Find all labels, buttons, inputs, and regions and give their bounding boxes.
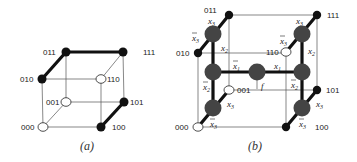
- vertex-100: [282, 123, 290, 131]
- svg-text:x2: x2: [307, 46, 315, 57]
- svg-text:x3: x3: [298, 119, 306, 130]
- edge-label-left-bottom-notx3: x3: [209, 119, 217, 130]
- svg-text:x3: x3: [207, 16, 215, 27]
- svg-text:x3: x3: [226, 99, 234, 110]
- vertex-011: [225, 11, 233, 19]
- svg-text:x3: x3: [315, 99, 323, 110]
- vertex-001: [61, 98, 71, 107]
- edge-label-right-notx2: x2: [290, 80, 298, 91]
- label-000: 000: [175, 123, 189, 132]
- label-001: 001: [46, 98, 60, 107]
- edge-111-101: [123, 52, 124, 102]
- label-100: 100: [112, 123, 126, 132]
- svg-text:x2: x2: [220, 43, 228, 54]
- vertex-000: [193, 123, 203, 131]
- label-110: 110: [266, 48, 279, 57]
- label-111: 111: [327, 11, 340, 20]
- output-label-f: f: [261, 81, 265, 91]
- node-left-bottom-x3: [205, 100, 222, 117]
- edge-label-right-top-x3: x3: [295, 16, 303, 27]
- vertex-101: [313, 86, 321, 94]
- label-101: 101: [326, 86, 340, 95]
- label-010: 010: [176, 49, 190, 58]
- node-left-x2: [205, 64, 222, 81]
- edge-label-left-notx2: x2: [202, 82, 210, 93]
- svg-text:x2: x2: [290, 80, 298, 91]
- edge-label-right-top-notx3: x3: [279, 36, 287, 47]
- label-011: 011: [204, 6, 217, 15]
- vertex-010: [38, 75, 47, 84]
- panel-b-cube: 011 111 010 110 001 101 000 100 x3 x3 x2…: [175, 6, 340, 153]
- vertex-111: [313, 11, 321, 19]
- edge-label-notx1: x1: [232, 61, 240, 72]
- label-111: 111: [143, 48, 156, 57]
- vertex-110: [281, 48, 291, 56]
- svg-text:x3: x3: [295, 16, 303, 27]
- svg-text:x2: x2: [202, 82, 210, 93]
- figure: 011 111 010 110 001 101 000 100 (a): [0, 0, 357, 162]
- svg-text:x1: x1: [273, 61, 281, 72]
- node-left-top-x3: [205, 26, 222, 43]
- vertex-101: [120, 98, 129, 107]
- vertex-100: [97, 123, 106, 132]
- node-right-bottom-x3: [294, 100, 311, 117]
- edge-label-right-bottom-notx3: x3: [298, 119, 306, 130]
- edge-label-right-x2: x2: [307, 46, 315, 57]
- panel-a-cube: 011 111 010 110 001 101 000 100 (a): [20, 48, 156, 154]
- label-010: 010: [20, 75, 34, 84]
- label-100: 100: [315, 123, 329, 132]
- edge-label-left-x2: x2: [220, 43, 228, 54]
- node-right-top-x3: [294, 26, 311, 43]
- label-110: 110: [107, 75, 120, 84]
- edge-010-000: [42, 79, 43, 127]
- edge-label-right-bottom-x3: x3: [315, 99, 323, 110]
- vertex-110: [96, 75, 106, 84]
- vertex-011: [62, 48, 71, 57]
- caption-a: (a): [80, 139, 94, 153]
- edge-label-x1: x1: [273, 61, 281, 72]
- label-101: 101: [130, 98, 144, 107]
- vertex-010: [194, 49, 202, 57]
- node-right-x2: [294, 64, 311, 81]
- label-011: 011: [43, 48, 56, 57]
- edge-label-left-bottom-x3: x3: [226, 99, 234, 110]
- label-001: 001: [237, 86, 251, 95]
- edge-label-left-top-x3: x3: [207, 16, 215, 27]
- svg-text:x3: x3: [209, 119, 217, 130]
- vertex-111: [119, 48, 128, 57]
- caption-b: (b): [248, 139, 262, 153]
- vertex-001: [224, 86, 234, 94]
- edge-label-left-top-notx3: x3: [191, 33, 199, 44]
- node-root-x1: [249, 64, 266, 81]
- svg-text:x3: x3: [191, 33, 199, 44]
- svg-text:x1: x1: [232, 61, 240, 72]
- label-000: 000: [21, 123, 35, 132]
- vertex-000: [38, 123, 48, 132]
- svg-text:x3: x3: [279, 36, 287, 47]
